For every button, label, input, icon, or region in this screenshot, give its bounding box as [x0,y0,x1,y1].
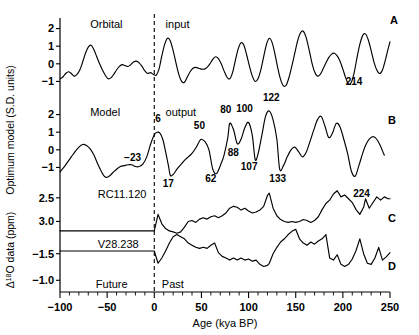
panel-letter-d: D [388,260,396,272]
x-tick-label: 250 [381,301,399,313]
annotation-62: 62 [205,173,217,184]
panel-b-title-right: output [166,106,197,118]
y-tick-label-c: 2.5 [39,192,54,204]
annotation-50: 50 [194,120,206,131]
y-tick-label-a: 2 [48,22,54,34]
panel-a-title-right: input [166,18,190,30]
y-tick-label-a: 1 [48,40,54,52]
annotation-224: 224 [353,188,370,199]
y-tick-label-b: 1 [48,126,54,138]
panel-letter-b: B [388,114,396,126]
annotation-17: 17 [163,178,175,189]
annotation-80: 80 [220,104,232,115]
y-tick-label-d: −1.0 [32,274,54,286]
y-axis-title-lower: Δ18O data (ppm) [4,212,16,289]
y-tick-label-b: 2 [48,108,54,120]
panel-a-title-left: Orbital [90,18,122,30]
y-tick-label-b: −1 [41,161,54,173]
y-tick-label-c: 3.0 [39,215,54,227]
y-tick-label-a: 0 [48,58,54,70]
x-tick-label: −100 [48,301,73,313]
curve-b [60,111,384,177]
curve-a [60,31,390,86]
annotation-88: 88 [228,147,240,158]
y-tick-label-a: −1 [41,75,54,87]
series-name-c: RC11.120 [98,188,147,200]
annotation-214: 214 [346,76,363,87]
y-tick-label-d: −1.5 [32,248,54,260]
x-tick-label: 0 [151,301,157,313]
annotation-133: 133 [269,173,286,184]
y-tick-label-b: 0 [48,144,54,156]
future-label: Future [96,278,128,290]
series-name-d: V28.238 [98,238,139,250]
x-tick-label: 100 [239,301,257,313]
annotation-122: 122 [263,92,280,103]
past-label: Past [162,278,184,290]
panel-letter-c: C [388,212,396,224]
x-tick-label: 50 [195,301,207,313]
annotation-6: 6 [155,113,161,124]
annotation-107: 107 [241,161,258,172]
annotation-100: 100 [236,103,253,114]
figure-container: 210−1210−12.53.0−1.5−1.0−100−50050100150… [0,0,419,335]
x-tick-label: 200 [334,301,352,313]
y-axis-title-upper: Optimum model (S.D. units) [4,65,16,195]
panel-b-title-left: Model [90,106,120,118]
x-axis-title: Age (kya BP) [193,317,258,329]
panel-letter-a: A [390,14,398,26]
x-tick-label: 150 [287,301,305,313]
annotation-neg23: −23 [124,152,141,163]
plot-svg: 210−1210−12.53.0−1.5−1.0−100−50050100150… [0,0,419,335]
x-tick-label: −50 [98,301,117,313]
